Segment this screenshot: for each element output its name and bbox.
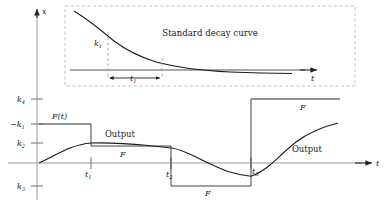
figure-canvas: x Standard decay curve k1 t1 t k4 −k1 k2… (0, 0, 392, 214)
decay-curve-figure: x Standard decay curve k1 t1 t k4 −k1 k2… (0, 0, 392, 214)
inset-decay-curve (74, 11, 292, 73)
inset-y-axis-label: x (42, 7, 47, 16)
output-label-second: Output (292, 144, 322, 154)
input-label-second: F (119, 150, 126, 159)
input-label-third: F (204, 189, 211, 198)
svg-text:−k1: −k1 (10, 120, 25, 130)
input-label-f-of-t: F(t) (51, 112, 67, 121)
svg-text:k3: k3 (17, 182, 26, 192)
svg-text:k1: k1 (94, 39, 102, 49)
main-ytick-neg-k1: −k1 (10, 120, 25, 130)
inset-t1-label: t1 (130, 74, 137, 84)
main-ytick-k3: k3 (17, 182, 26, 192)
main-xtick-t1: t1 (85, 170, 92, 180)
input-label-fourth: F (299, 103, 306, 112)
inset-x-axis-label: t (311, 74, 315, 83)
main-x-axis-label: t (376, 159, 380, 168)
svg-text:t2: t2 (166, 170, 173, 180)
svg-text:k2: k2 (17, 139, 25, 149)
svg-text:t1: t1 (130, 74, 137, 84)
svg-text:k4: k4 (17, 95, 25, 105)
output-label-first: Output (105, 129, 135, 139)
main-ytick-k2: k2 (17, 139, 25, 149)
main-ytick-k4: k4 (17, 95, 25, 105)
inset-k1-label: k1 (94, 39, 102, 49)
svg-text:t1: t1 (85, 170, 92, 180)
svg-text:t3: t3 (252, 167, 259, 177)
main-xtick-t2: t2 (166, 170, 173, 180)
main-xtick-t3: t3 (252, 167, 259, 177)
inset-caption: Standard decay curve (162, 28, 257, 38)
